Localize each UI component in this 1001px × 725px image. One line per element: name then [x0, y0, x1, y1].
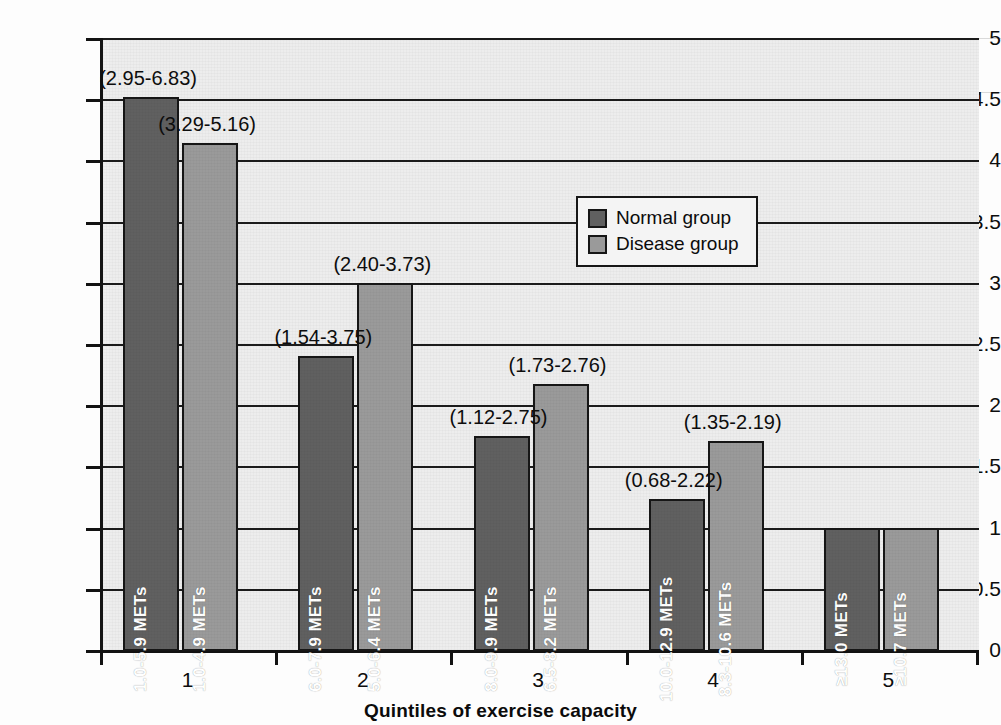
y-axis-tick	[86, 528, 100, 531]
ci-label-normal-quintile-1: (2.95-6.83)	[78, 67, 218, 90]
bar-value-label: ≥10.7 METs	[891, 592, 911, 686]
x-axis-tick	[275, 650, 278, 665]
bar-value-label: 1.0-5.9 METs	[131, 586, 151, 691]
bar-normal-quintile-3[interactable]: 8.0-9.9 METs	[474, 436, 530, 651]
ci-label-normal-quintile-2: (1.54-3.75)	[253, 326, 393, 349]
bar-value-label: 1.0-4.9 METs	[190, 586, 210, 691]
y-axis-tick	[86, 466, 100, 469]
bar-normal-quintile-2[interactable]: 6.0-7.9 METs	[298, 356, 354, 651]
bar-disease-quintile-5[interactable]: ≥10.7 METs	[883, 528, 939, 651]
bar-disease-quintile-1[interactable]: 1.0-4.9 METs	[182, 143, 238, 651]
chart-legend: Normal group Disease group	[576, 196, 758, 267]
bar-normal-quintile-4[interactable]: 10.0-12.9 METs	[649, 499, 705, 651]
y-axis-tick	[86, 99, 100, 102]
ci-label-disease-quintile-4: (1.35-2.19)	[663, 411, 803, 434]
y-axis-tick	[86, 283, 100, 286]
y-axis-tick	[86, 589, 100, 592]
bar-value-label: 10.0-12.9 METs	[657, 577, 677, 702]
y-axis-tick	[86, 650, 100, 653]
x-axis-tick	[801, 650, 804, 665]
bar-value-label: 5.0-6.4 METs	[365, 586, 385, 691]
bar-value-label: 8.3-10.6 METs	[716, 581, 736, 696]
x-axis-tick	[626, 650, 629, 665]
y-axis-tick	[86, 160, 100, 163]
bar-value-label: 6.5-8.2 METs	[541, 586, 561, 691]
x-axis-title: Quintiles of exercise capacity	[0, 700, 1001, 722]
y-axis-tick	[86, 405, 100, 408]
ci-label-disease-quintile-3: (1.73-2.76)	[488, 354, 628, 377]
bar-value-label: ≥13.0 METs	[832, 592, 852, 686]
y-axis-tick	[86, 38, 100, 41]
legend-label-normal-group: Normal group	[616, 207, 731, 229]
legend-item-normal-group[interactable]: Normal group	[588, 205, 746, 231]
y-axis-tick	[86, 222, 100, 225]
legend-label-disease-group: Disease group	[616, 233, 739, 255]
bar-normal-quintile-5[interactable]: ≥13.0 METs	[824, 528, 880, 651]
gridline	[103, 38, 979, 40]
legend-item-disease-group[interactable]: Disease group	[588, 231, 746, 257]
x-axis-tick	[976, 650, 979, 665]
ci-label-normal-quintile-3: (1.12-2.75)	[429, 406, 569, 429]
legend-swatch-disease-group	[588, 235, 607, 254]
chart-figure: VE RISKS OF DEATH AMONG HARVARD ALUMNI, …	[0, 0, 1001, 725]
x-axis-tick	[450, 650, 453, 665]
bar-normal-quintile-1[interactable]: 1.0-5.9 METs	[123, 97, 179, 651]
ci-label-normal-quintile-4: (0.68-2.22)	[604, 469, 744, 492]
bar-value-label: 8.0-9.9 METs	[482, 586, 502, 691]
ci-label-disease-quintile-1: (3.29-5.16)	[137, 113, 277, 136]
gridline	[103, 99, 979, 101]
legend-swatch-normal-group	[588, 209, 607, 228]
ci-label-disease-quintile-2: (2.40-3.73)	[312, 253, 452, 276]
bar-value-label: 6.0-7.9 METs	[306, 586, 326, 691]
x-axis-tick	[100, 650, 103, 665]
y-axis-tick	[86, 344, 100, 347]
